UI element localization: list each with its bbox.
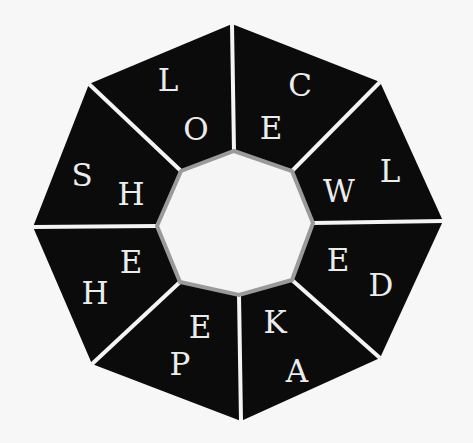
inner-letter: O [183, 111, 208, 147]
segment-divider [313, 221, 443, 223]
outer-letter: S [71, 157, 92, 193]
segment-divider [232, 24, 234, 151]
outer-letter: L [158, 62, 179, 98]
inner-letter: E [327, 242, 350, 278]
octagon-word-puzzle: LOCELWDEAKPEHESH [0, 0, 473, 443]
inner-letter: E [120, 244, 143, 280]
puzzle-board: LOCELWDEAKPEHESH [0, 0, 473, 443]
segment-divider [239, 295, 241, 421]
outer-letter: A [285, 353, 309, 389]
inner-letter: W [323, 173, 355, 209]
inner-letter: H [117, 176, 144, 212]
outer-letter: L [380, 153, 401, 189]
center-octagon [157, 151, 313, 295]
outer-letter: D [369, 267, 394, 303]
outer-letter: P [170, 346, 191, 382]
outer-letter: H [81, 275, 108, 311]
segment-divider [33, 226, 157, 227]
inner-letter: E [189, 309, 212, 345]
inner-letter: K [263, 304, 287, 340]
outer-letter: C [288, 67, 312, 103]
inner-letter: E [260, 110, 283, 146]
